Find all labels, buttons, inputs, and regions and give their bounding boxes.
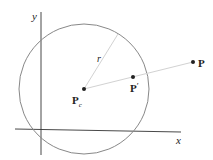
radius-label: r: [97, 53, 101, 64]
outer-point: [191, 60, 195, 64]
projected-point-label: P′: [130, 81, 139, 94]
y-axis-label: y: [31, 10, 37, 22]
x-axis: [15, 129, 181, 132]
projected-point: [131, 75, 135, 79]
x-axis-label: x: [175, 134, 181, 146]
radius-line: [84, 34, 118, 89]
center-point-label: Pc: [72, 94, 83, 109]
outer-point-label: P: [198, 57, 205, 69]
center-point: [82, 87, 86, 91]
diagram-canvas: y x r Pc P′ P: [0, 0, 213, 160]
